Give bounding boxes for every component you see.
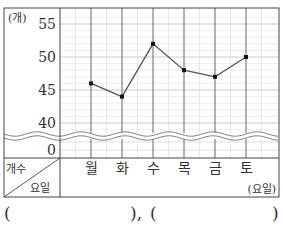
x-category-label: 수 [147,160,160,176]
data-point-marker [120,95,124,99]
data-point-marker [151,42,155,46]
line-chart: 040455055(개)개수요일월화수목금토(요일) [0,0,283,200]
y-tick-label: 40 [38,115,56,131]
x-category-label: 금 [209,160,222,176]
x-category-label: 화 [116,160,129,176]
y-tick-label: 0 [47,142,56,158]
x-unit-label: (요일) [247,182,276,196]
answer-blanks: ( ), ( ) [0,203,283,229]
y-tick-label: 55 [38,16,56,32]
y-tick-label: 45 [38,82,56,98]
y-tick-label: 50 [38,49,56,65]
data-point-marker [182,68,186,72]
line-chart-svg: 040455055(개)개수요일월화수목금토(요일) [0,0,283,200]
x-category-label: 토 [240,160,253,176]
answer-blank-2-close: ) [272,203,279,223]
data-point-marker [244,55,248,59]
answer-blank-1-open: ( [4,203,11,223]
answer-blank-1-close: ), [130,203,142,223]
x-category-label: 월 [85,160,98,176]
x-category-label: 목 [178,160,191,176]
data-point-marker [213,75,217,79]
corner-header-top: 개수 [6,163,26,176]
y-unit-label: (개) [8,12,27,25]
data-point-marker [89,81,93,85]
corner-header-bottom: 요일 [30,181,50,195]
answer-blank-2-open: ( [150,203,157,223]
